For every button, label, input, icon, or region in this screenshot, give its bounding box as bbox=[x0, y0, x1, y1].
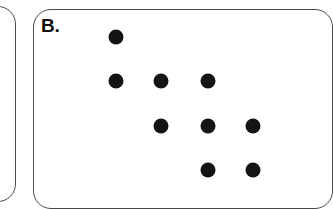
panel-b-outline bbox=[33, 9, 333, 209]
panel-a-outline bbox=[0, 6, 16, 202]
panel-b-label: B. bbox=[41, 16, 59, 36]
